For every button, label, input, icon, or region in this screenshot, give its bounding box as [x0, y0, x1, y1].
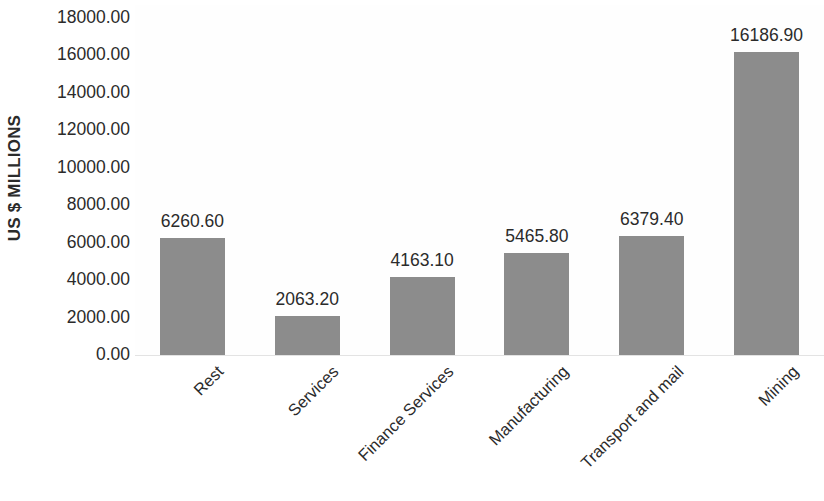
y-axis-tick-label: 6000.00 — [20, 234, 130, 252]
y-axis-tick-label: 4000.00 — [20, 271, 130, 289]
y-axis-tick-label: 0.00 — [20, 346, 130, 364]
category-axis-label: Services — [285, 362, 343, 420]
bar-value-label: 6260.60 — [161, 213, 224, 231]
bar — [160, 238, 225, 355]
bar-value-label: 16186.90 — [730, 27, 803, 45]
bar — [275, 316, 340, 355]
category-axis-label: Finance Services — [355, 362, 457, 464]
bar-value-label: 6379.40 — [620, 211, 683, 229]
y-axis-tick-label: 12000.00 — [20, 122, 130, 140]
category-axis-label: Mining — [754, 362, 801, 409]
bar-value-label: 4163.10 — [390, 252, 453, 270]
category-axis-line — [135, 355, 824, 356]
bar-value-label: 5465.80 — [505, 228, 568, 246]
category-axis-label: Transport and mail — [577, 362, 687, 472]
category-axis-label: Rest — [190, 362, 227, 399]
plot-area — [135, 5, 824, 355]
bar — [390, 277, 455, 355]
y-axis-tick-label: 10000.00 — [20, 159, 130, 177]
bar-value-label: 2063.20 — [276, 291, 339, 309]
y-axis-tick-label: 8000.00 — [20, 196, 130, 214]
bar — [619, 236, 684, 355]
bar — [504, 253, 569, 355]
y-axis-tick-label: 16000.00 — [20, 47, 130, 65]
bar — [734, 52, 799, 355]
y-axis-tick-label: 14000.00 — [20, 84, 130, 102]
y-axis-tick-label: 2000.00 — [20, 309, 130, 327]
y-axis-tick-label: 18000.00 — [20, 9, 130, 27]
bar-chart: US $ MILLIONS 0.002000.004000.006000.008… — [0, 0, 824, 501]
category-axis-label: Manufacturing — [485, 362, 572, 449]
